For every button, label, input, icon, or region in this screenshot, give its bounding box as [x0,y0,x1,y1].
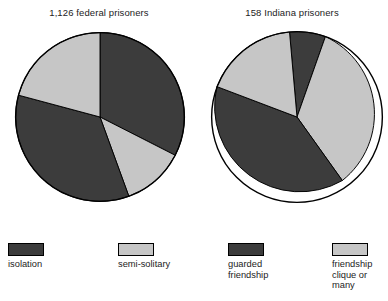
legend-item-friendship-clique: friendship clique or many [332,243,388,291]
legend-item-isolation: isolation [8,243,112,270]
legend-swatch-isolation [8,243,44,256]
chart-title-indiana: 158 Indiana prisoners [196,7,388,18]
pie-chart-figure: 1,126 federal prisoners 158 Indiana pris… [0,0,388,301]
pie-svg-federal [13,30,187,204]
legend-label-friendship-clique: friendship clique or many [332,259,388,291]
legend-swatch-friendship-clique [332,243,368,256]
pie-svg-indiana [209,29,385,205]
legend-label-guarded-friendship: guarded friendship [228,259,324,280]
legend-swatch-semi-solitary [118,243,154,256]
chart-title-federal: 1,126 federal prisoners [0,7,198,18]
legend-item-guarded-friendship: guarded friendship [228,243,324,280]
pie-slices-federal [16,33,185,202]
pie-chart-indiana [209,29,385,205]
legend: isolation semi-solitary guarded friendsh… [0,243,388,301]
pie-chart-federal [13,30,187,204]
legend-item-semi-solitary: semi-solitary [118,243,222,270]
legend-label-isolation: isolation [8,259,112,270]
legend-swatch-guarded-friendship [228,243,264,256]
legend-label-semi-solitary: semi-solitary [118,259,222,270]
